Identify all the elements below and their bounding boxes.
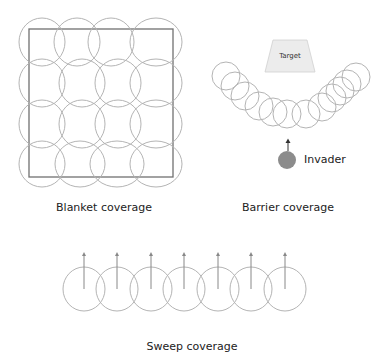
sweep-coverage-diagram [63,252,306,311]
sensor-range-circle [318,84,346,112]
sensor-range-circle [326,77,354,105]
invader-dot [278,151,296,169]
barrier-caption: Barrier coverage [242,201,334,214]
sensor-range-circle [88,18,134,66]
arrowhead-icon [182,252,186,256]
sensor-range-circle [333,70,361,98]
coverage-diagram [0,0,387,354]
sweep-caption: Sweep coverage [146,340,237,353]
sensor-range-circle [342,63,370,91]
arrowhead-icon [115,252,119,256]
sensor-range-circle [308,93,336,121]
blanket-caption: Blanket coverage [56,201,152,214]
arrowhead-icon [149,252,153,256]
arrowhead-icon [82,252,86,256]
blanket-coverage-diagram [19,18,182,187]
coverage-area-square [29,29,173,177]
invader-label: Invader [304,153,346,166]
arrowhead-icon [283,252,287,256]
invader-arrowhead-icon [286,139,291,144]
arrowhead-icon [216,252,220,256]
sensor-range-circle [292,100,320,128]
sensor-range-circle [54,18,100,66]
target-label: Target [279,52,301,60]
arrowhead-icon [249,252,253,256]
